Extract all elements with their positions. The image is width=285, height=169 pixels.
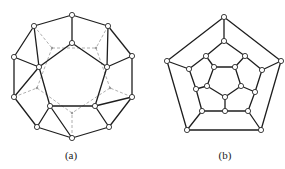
vertex	[221, 14, 226, 19]
vertex	[129, 94, 134, 99]
edge	[167, 17, 224, 61]
figure-a	[11, 12, 134, 140]
edge	[224, 41, 245, 56]
vertex	[204, 83, 209, 88]
vertex	[129, 53, 134, 58]
vertex	[278, 58, 283, 63]
hidden-edge	[72, 88, 110, 113]
hidden-edge	[96, 26, 108, 48]
hidden-vertex	[71, 112, 73, 114]
figure-b-caption: (b)	[219, 149, 232, 161]
vertex	[211, 64, 216, 69]
vertex	[259, 67, 264, 72]
edge	[187, 111, 202, 130]
edge	[107, 26, 108, 67]
edge	[14, 57, 39, 67]
vertex	[69, 135, 74, 140]
edge	[14, 26, 34, 57]
vertex	[186, 66, 191, 71]
edge	[14, 97, 37, 127]
vertex	[252, 89, 257, 94]
vertex	[92, 103, 97, 108]
figure-a-caption: (a)	[65, 149, 77, 161]
figure-b	[164, 14, 283, 132]
edge	[95, 106, 109, 127]
hidden-vertex	[51, 47, 53, 49]
vertex	[164, 58, 169, 63]
edge	[189, 56, 206, 69]
edge	[95, 67, 107, 106]
vertex	[104, 64, 109, 69]
edge	[34, 26, 39, 67]
diagram-canvas	[0, 0, 285, 169]
vertex	[232, 64, 237, 69]
vertex	[238, 83, 243, 88]
edge	[255, 70, 262, 92]
vertex	[11, 94, 16, 99]
vertex	[69, 12, 74, 17]
vertex	[47, 103, 52, 108]
hidden-vertex	[109, 87, 111, 89]
edge	[167, 61, 187, 130]
vertex	[242, 53, 247, 58]
vertex	[199, 108, 204, 113]
edge	[72, 15, 108, 26]
edge	[206, 41, 224, 56]
vertex	[245, 108, 250, 113]
vertex	[184, 127, 189, 132]
edge	[245, 56, 262, 70]
vertex	[36, 64, 41, 69]
edge	[72, 43, 107, 67]
edge	[37, 106, 50, 127]
edge	[107, 56, 132, 67]
vertex	[11, 54, 16, 59]
vertex	[193, 86, 198, 91]
figure-a-hidden-vertices	[36, 47, 111, 114]
edge	[248, 111, 261, 130]
edge	[72, 127, 109, 138]
edge	[224, 17, 281, 61]
vertex	[34, 124, 39, 129]
vertex	[221, 38, 226, 43]
edge	[34, 15, 72, 26]
edge	[207, 86, 225, 97]
edge	[167, 61, 189, 69]
edge	[196, 89, 202, 111]
edge	[14, 67, 39, 97]
vertex	[69, 40, 74, 45]
vertex	[222, 94, 227, 99]
vertex	[105, 23, 110, 28]
hidden-edge	[110, 88, 132, 97]
vertex	[31, 23, 36, 28]
vertex	[222, 108, 227, 113]
vertex	[258, 127, 263, 132]
hidden-vertex	[95, 47, 97, 49]
edge	[50, 106, 72, 138]
edge	[189, 69, 196, 89]
edge	[39, 43, 72, 67]
edge	[37, 127, 72, 138]
figure-a-edges	[14, 15, 132, 138]
hidden-vertex	[36, 87, 38, 89]
hidden-edge	[37, 88, 72, 113]
edge	[108, 26, 132, 56]
vertex	[106, 124, 111, 129]
vertex	[203, 53, 208, 58]
edge	[39, 67, 50, 106]
